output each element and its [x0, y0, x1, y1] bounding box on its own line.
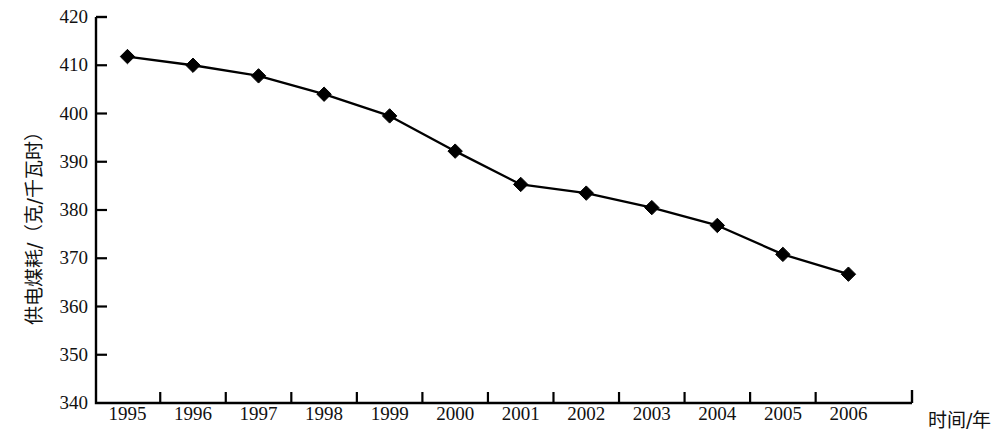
data-point-1995: [120, 49, 134, 63]
data-series: [120, 49, 855, 281]
data-point-2003: [645, 200, 659, 214]
tick-marks: [96, 65, 816, 403]
series-line: [127, 57, 848, 275]
data-point-1998: [317, 87, 331, 101]
axis-line: [96, 17, 912, 403]
axis-lines: [96, 17, 912, 403]
data-point-2001: [514, 177, 528, 191]
data-point-2002: [579, 186, 593, 200]
data-point-1997: [251, 69, 265, 83]
plot-area: [0, 0, 1005, 437]
data-point-2006: [841, 267, 855, 281]
data-point-2004: [710, 218, 724, 232]
data-point-1999: [382, 109, 396, 123]
data-point-2005: [776, 247, 790, 261]
data-point-1996: [186, 58, 200, 72]
data-point-2000: [448, 144, 462, 158]
line-chart: 供电煤耗/（克/千瓦时） 420410400390380370360350340…: [0, 0, 1005, 437]
